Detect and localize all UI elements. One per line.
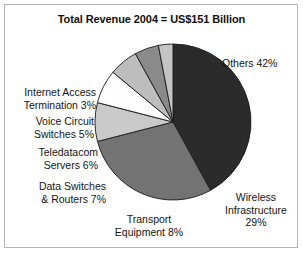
pie-label-transport-line2: Equipment 8% bbox=[104, 226, 194, 239]
pie-label-voice-line2: Switches 5% bbox=[10, 128, 94, 141]
pie-label-transport-line1: Transport bbox=[104, 213, 194, 226]
pie-label-data-switches-line1: Data Switches bbox=[10, 180, 106, 193]
chart-figure: Total Revenue 2004 = US$151 Billion Othe… bbox=[0, 0, 303, 253]
pie-label-wireless-infrastructure: Wireless Infrastructure 29% bbox=[218, 191, 294, 229]
pie-label-internet-line1: Internet Access bbox=[4, 86, 96, 99]
pie-label-internet-access-termination: Internet Access Termination 3% bbox=[4, 86, 96, 111]
pie-label-data-switches-line2: & Routers 7% bbox=[10, 193, 106, 206]
pie-label-teledatacom-line2: Servers 6% bbox=[10, 159, 98, 172]
pie-label-wireless-line3: 29% bbox=[218, 216, 294, 229]
pie-label-wireless-line2: Infrastructure bbox=[218, 204, 294, 217]
pie-label-transport-equipment: Transport Equipment 8% bbox=[104, 213, 194, 238]
pie-label-voice-line1: Voice Circuit bbox=[10, 115, 94, 128]
pie-label-wireless-line1: Wireless bbox=[218, 191, 294, 204]
pie-label-others: Others 42% bbox=[222, 57, 277, 70]
pie-label-data-switches-routers: Data Switches & Routers 7% bbox=[10, 180, 106, 205]
pie-label-teledatacom-line1: Teledatacom bbox=[10, 146, 98, 159]
pie-label-internet-line2: Termination 3% bbox=[4, 99, 96, 112]
pie-label-voice-circuit-switches: Voice Circuit Switches 5% bbox=[10, 115, 94, 140]
pie-label-teledatacom-servers: Teledatacom Servers 6% bbox=[10, 146, 98, 171]
pie-label-others-line1: Others 42% bbox=[222, 57, 277, 70]
